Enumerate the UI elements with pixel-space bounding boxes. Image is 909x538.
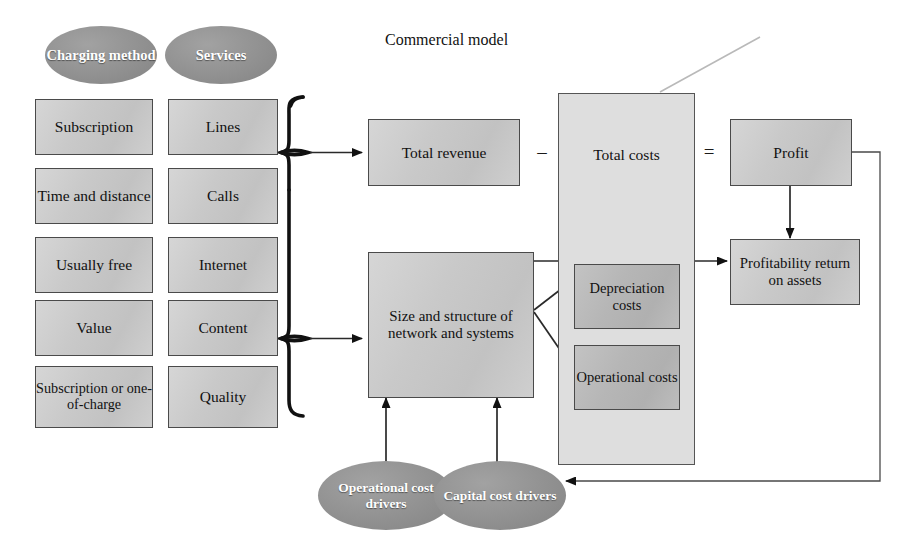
charging-method-item-time-and-distance[interactable]: Time and distance (35, 168, 153, 224)
services-item-calls[interactable]: Calls (168, 168, 278, 224)
size-and-structure-box[interactable]: Size and structure of network and system… (368, 252, 534, 398)
driver-label: Capital cost drivers (443, 488, 556, 503)
item-label: Content (198, 319, 247, 336)
column-header-charging-method: Charging method (45, 26, 157, 84)
profitability-box[interactable]: Profitability return on assets (730, 239, 860, 305)
total-costs-label: Total costs (559, 146, 694, 163)
diagram-title: Commercial model (385, 28, 575, 52)
item-label: Value (76, 319, 111, 336)
total-revenue-label: Total revenue (402, 144, 487, 161)
equals-sign: = (704, 141, 715, 162)
item-label: Internet (199, 256, 247, 273)
profit-label: Profit (773, 144, 808, 161)
item-label: Usually free (56, 256, 132, 273)
operational-costs-box[interactable]: Operational costs (574, 345, 680, 410)
operational-costs-label: Operational costs (576, 369, 677, 385)
scan-artifact-line (660, 37, 760, 92)
column-header-services: Services (165, 26, 277, 84)
item-label: Subscription or one-of-charge (36, 381, 152, 413)
services-item-internet[interactable]: Internet (168, 237, 278, 293)
total-revenue-box[interactable]: Total revenue (368, 119, 520, 186)
item-label: Quality (200, 388, 247, 405)
diagram-title-label: Commercial model (385, 31, 508, 49)
item-label: Time and distance (37, 187, 150, 204)
diagram-canvas: Charging method Subscription Time and di… (0, 0, 909, 538)
charging-method-item-value[interactable]: Value (35, 300, 153, 356)
column-header-label: Services (196, 47, 247, 63)
charging-method-item-subscription[interactable]: Subscription (35, 99, 153, 155)
item-label: Subscription (55, 118, 133, 135)
column-header-label: Charging method (46, 47, 155, 63)
item-label: Lines (206, 118, 240, 135)
services-item-quality[interactable]: Quality (168, 366, 278, 428)
minus-sign: – (537, 141, 547, 162)
services-item-lines[interactable]: Lines (168, 99, 278, 155)
profit-box[interactable]: Profit (730, 119, 852, 186)
charging-method-item-usually-free[interactable]: Usually free (35, 237, 153, 293)
capital-cost-drivers-ellipse[interactable]: Capital cost drivers (434, 461, 566, 530)
profitability-label: Profitability return on assets (731, 255, 859, 288)
depreciation-costs-label: Depreciation costs (575, 280, 679, 312)
item-label: Calls (207, 187, 239, 204)
equals-operator: = (697, 140, 721, 164)
depreciation-costs-box[interactable]: Depreciation costs (574, 264, 680, 329)
brace-upper (281, 97, 308, 190)
brace-lower (281, 190, 308, 416)
charging-method-item-subscription-or-one-of-charge[interactable]: Subscription or one-of-charge (35, 366, 153, 428)
minus-operator: – (530, 140, 554, 164)
services-item-content[interactable]: Content (168, 300, 278, 356)
size-and-structure-label: Size and structure of network and system… (369, 308, 533, 342)
